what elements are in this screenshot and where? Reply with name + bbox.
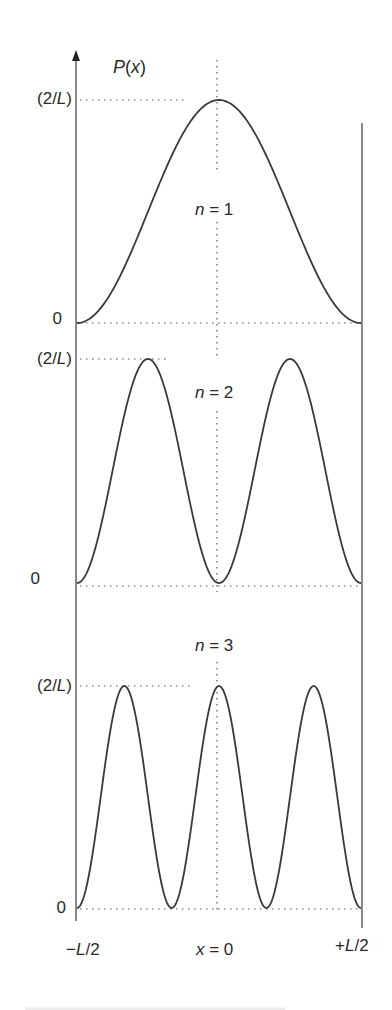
- n-eq: = 3: [204, 636, 233, 655]
- y-axis-arrow-icon: [72, 50, 80, 61]
- x-left-L: L: [76, 940, 85, 959]
- n-eq: = 1: [204, 200, 233, 219]
- x-right-rest: /2: [354, 936, 368, 955]
- max-label-b: ): [66, 349, 72, 368]
- n3-label: n = 3: [195, 636, 233, 656]
- max-label-L: L: [57, 349, 66, 368]
- max-label-a: (2/: [37, 676, 57, 695]
- n1-zero-label: 0: [0, 309, 62, 329]
- max-label-a: (2/: [37, 349, 57, 368]
- zero-label: 0: [53, 309, 62, 328]
- y-axis-label-x: x: [131, 57, 140, 77]
- curve-n3: [77, 686, 361, 908]
- x-tick-center: x = 0: [196, 940, 233, 960]
- n1-label: n = 1: [195, 200, 233, 220]
- y-axis-label-close: ): [140, 57, 146, 77]
- x-tick-right: +L/2: [335, 936, 369, 956]
- y-axis-label-p: P: [113, 57, 125, 77]
- max-label-b: ): [66, 676, 72, 695]
- x-right-L: L: [345, 936, 354, 955]
- n-eq: = 2: [204, 383, 233, 402]
- n1-max-label: (2/L): [0, 89, 72, 109]
- x-tick-left: −L/2: [66, 940, 100, 960]
- zero-label: 0: [31, 569, 40, 588]
- probability-density-chart: [0, 0, 392, 1010]
- x-mid-rest: = 0: [205, 940, 234, 959]
- max-label-a: (2/: [37, 89, 57, 108]
- y-axis-label: P(x): [113, 57, 146, 77]
- max-label-b: ): [66, 89, 72, 108]
- max-label-L: L: [57, 676, 66, 695]
- zero-label: 0: [57, 898, 66, 917]
- max-label-L: L: [57, 89, 66, 108]
- reference-dotted-lines: [80, 100, 362, 909]
- caption-cutoff: [25, 1006, 285, 1010]
- n3-max-label: (2/L): [0, 676, 72, 696]
- n2-label: n = 2: [195, 383, 233, 403]
- x-right-sign: +: [335, 936, 345, 955]
- n2-max-label: (2/L): [0, 349, 72, 369]
- x-left-rest: /2: [85, 940, 99, 959]
- x-left-sign: −: [66, 940, 76, 959]
- n3-zero-label: 0: [0, 898, 66, 918]
- x-mid-x: x: [196, 940, 205, 959]
- n2-zero-label: 0: [0, 569, 40, 589]
